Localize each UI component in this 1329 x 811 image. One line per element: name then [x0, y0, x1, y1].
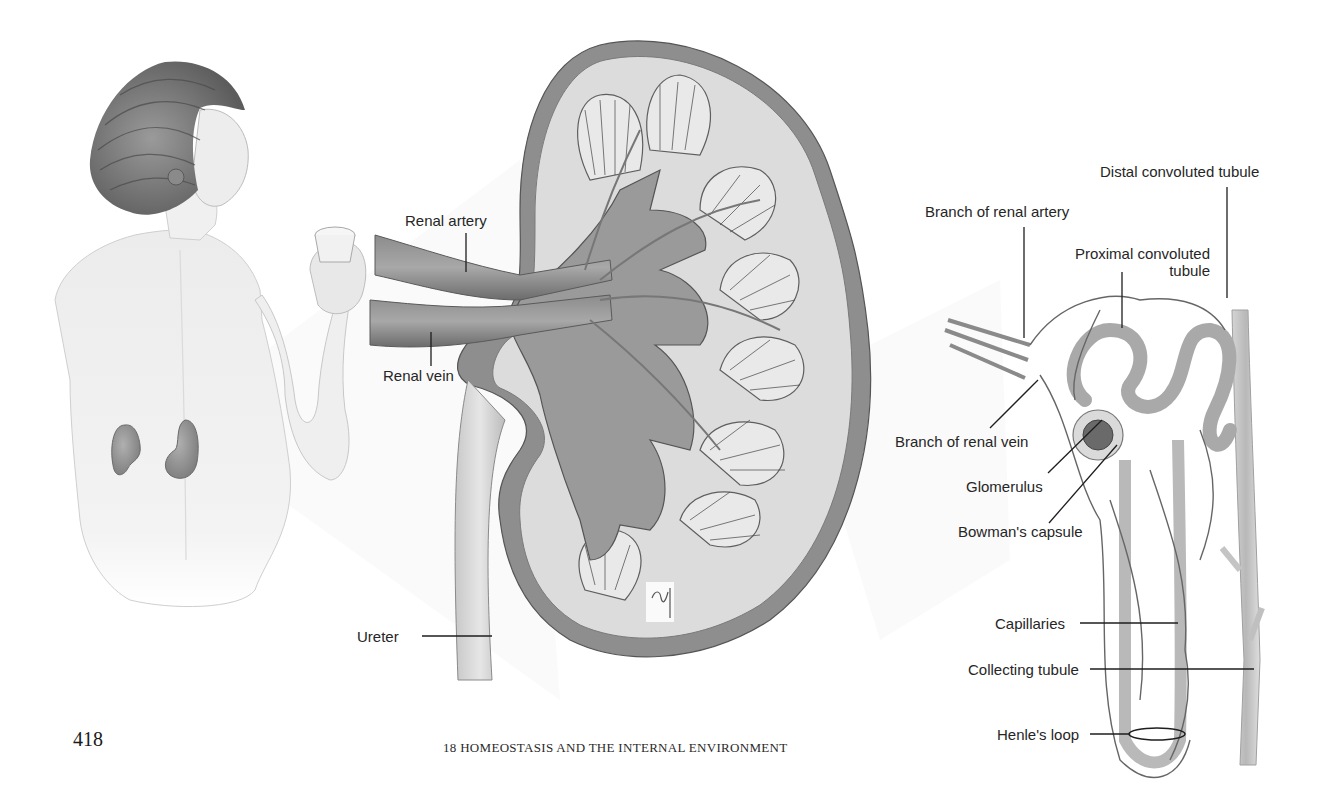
label-renal-vein: Renal vein: [383, 367, 454, 384]
label-capillaries: Capillaries: [995, 615, 1065, 632]
label-henles-loop: Henle's loop: [997, 726, 1079, 743]
label-branch-of-renal-vein: Branch of renal vein: [895, 433, 1028, 450]
label-glomerulus: Glomerulus: [966, 478, 1043, 495]
label-proximal-convoluted-tubule: Proximal convoluted tubule: [1050, 245, 1210, 279]
label-distal-convoluted-tubule: Distal convoluted tubule: [1100, 163, 1259, 180]
label-renal-artery: Renal artery: [405, 212, 487, 229]
label-proximal-line1: Proximal convoluted: [1050, 245, 1210, 262]
page-number: 418: [73, 728, 103, 751]
label-branch-of-renal-artery: Branch of renal artery: [925, 203, 1069, 220]
label-proximal-line2: tubule: [1050, 262, 1210, 279]
figure-illustration: [0, 0, 1329, 811]
label-bowmans-capsule: Bowman's capsule: [958, 523, 1083, 540]
running-head: 18 HOMEOSTASIS AND THE INTERNAL ENVIRONM…: [443, 740, 787, 756]
label-ureter: Ureter: [357, 628, 399, 645]
label-collecting-tubule: Collecting tubule: [968, 661, 1079, 678]
